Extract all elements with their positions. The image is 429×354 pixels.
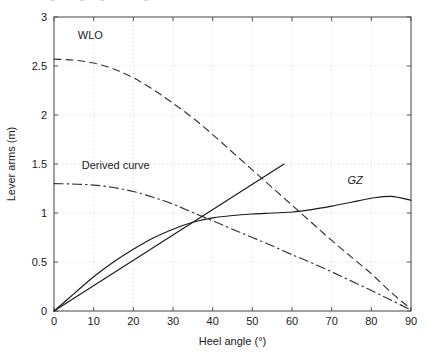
y-tick-label: 0: [41, 305, 47, 317]
x-tick-label: 80: [365, 315, 377, 327]
x-tick-label: 50: [246, 315, 258, 327]
chart-plot: 010203040506070809000.511.522.53 Heel an…: [0, 0, 429, 354]
curve-label-wlo: WLO: [78, 29, 104, 41]
figure-container: Figure: righting lever diagram 010203040…: [0, 0, 429, 354]
x-tick-label: 70: [326, 315, 338, 327]
curve-label-gz: GZ: [348, 174, 365, 186]
y-tick-label: 1: [41, 207, 47, 219]
x-tick-label: 40: [207, 315, 219, 327]
x-tick-label: 90: [405, 315, 417, 327]
y-tick-label: 2.5: [32, 60, 47, 72]
x-tick-label: 0: [51, 315, 57, 327]
curve-annotations: WLODerived curveGZ: [78, 29, 364, 186]
y-tick-label: 0.5: [32, 256, 47, 268]
y-tick-label: 3: [41, 11, 47, 23]
x-tick-label: 10: [88, 315, 100, 327]
x-axis-title: Heel angle (°): [199, 335, 266, 347]
series-line-initial-metacentric-tangent: [54, 164, 284, 311]
series-line-gz: [54, 196, 411, 311]
x-tick-label: 30: [167, 315, 179, 327]
y-tick-label: 2: [41, 109, 47, 121]
y-axis-title: Lever arms (m): [5, 127, 17, 202]
series-line-derived-curve: [54, 184, 411, 310]
x-tick-label: 20: [127, 315, 139, 327]
x-tick-label: 60: [286, 315, 298, 327]
curve-label-derived-curve: Derived curve: [82, 159, 150, 171]
y-tick-label: 1.5: [32, 158, 47, 170]
